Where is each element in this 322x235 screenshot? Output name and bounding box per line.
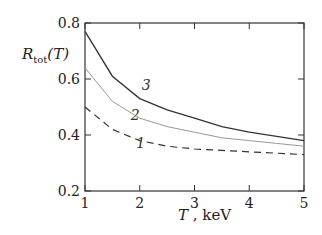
chart: 123450.20.40.60.8123 Rtot(T) T , keV — [0, 0, 322, 235]
svg-text:0.4: 0.4 — [58, 127, 80, 143]
svg-text:5: 5 — [300, 195, 309, 211]
svg-text:4: 4 — [245, 195, 254, 211]
y-axis-label: Rtot(T) — [22, 45, 69, 65]
svg-text:3: 3 — [142, 77, 151, 93]
svg-text:0.2: 0.2 — [58, 183, 80, 199]
svg-text:1: 1 — [81, 195, 90, 211]
svg-text:0.8: 0.8 — [58, 15, 80, 31]
svg-text:0.6: 0.6 — [58, 71, 80, 87]
svg-text:2: 2 — [135, 195, 144, 211]
x-axis-label: T , keV — [178, 206, 231, 224]
plot-area: 123450.20.40.60.8123 — [0, 0, 322, 235]
svg-text:1: 1 — [136, 135, 145, 151]
svg-text:2: 2 — [130, 107, 140, 123]
